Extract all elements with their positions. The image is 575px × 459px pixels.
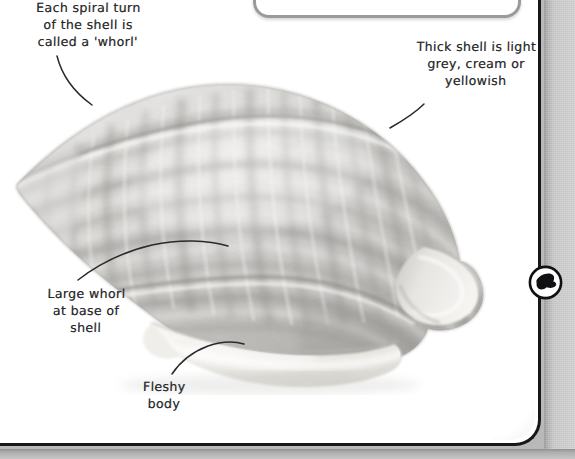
page-corner-shading — [493, 398, 535, 440]
page-gutter-bottom — [0, 449, 575, 459]
callout-fleshy-body: Fleshy body — [118, 378, 211, 412]
top-rounded-box — [253, 0, 521, 18]
shell-body-group — [0, 55, 520, 395]
shell-silhouette-icon — [527, 264, 564, 301]
callout-whorl: Each spiral turn of the shell is called … — [7, 0, 168, 50]
callout-large-whorl: Large whorl at base of shell — [19, 285, 152, 336]
shell-photograph — [0, 55, 520, 395]
shell-illustration — [0, 55, 520, 395]
shell-badge[interactable] — [527, 264, 564, 301]
top-rounded-box-inner-stroke — [258, 0, 516, 13]
page-root: Each spiral turn of the shell is called … — [0, 0, 575, 459]
callout-shell-thickness: Thick shell is light grey, cream or yell… — [389, 38, 562, 89]
